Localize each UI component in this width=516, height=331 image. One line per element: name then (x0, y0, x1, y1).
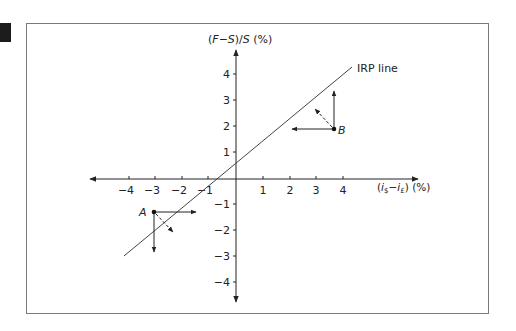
y-tick-label: 3 (223, 94, 230, 107)
x-tick-label: 4 (340, 184, 347, 197)
x-tick-label: −2 (171, 184, 187, 197)
arrow-b-dashed (315, 109, 332, 127)
arrow-a-dashed (156, 214, 173, 232)
y-tick-label: −3 (214, 250, 230, 263)
x-axis-label: (i$−i£) (%) (377, 181, 430, 195)
irp-line-label: IRP line (357, 62, 398, 75)
x-tick-label: −4 (118, 184, 134, 197)
y-tick-label: 4 (223, 68, 230, 81)
y-tick-label: 2 (223, 120, 230, 133)
y-tick-label: −2 (214, 224, 230, 237)
x-tick-label: 2 (287, 184, 294, 197)
x-tick-labels: −4 −3 −2 −1 1 2 3 4 (118, 184, 347, 197)
x-tick-label: −3 (144, 184, 160, 197)
point-a (152, 210, 157, 215)
y-tick-label: −1 (214, 198, 230, 211)
point-a-label: A (138, 206, 147, 219)
x-tick-label: 1 (260, 184, 267, 197)
point-a-group: A (138, 206, 196, 252)
point-b-group: B (292, 91, 346, 137)
y-tick-label: 1 (223, 146, 230, 159)
point-b-label: B (338, 124, 346, 137)
y-tick-label: −4 (214, 276, 230, 289)
point-b (332, 127, 337, 132)
irp-diagram: −4 −3 −2 −1 1 2 3 4 4 3 2 1 −1 −2 −3 −4 … (0, 0, 516, 331)
x-tick-label: −1 (197, 184, 213, 197)
y-axis-label: (F−S)/S (%) (208, 33, 272, 46)
x-tick-label: 3 (313, 184, 320, 197)
irp-line (124, 67, 352, 256)
